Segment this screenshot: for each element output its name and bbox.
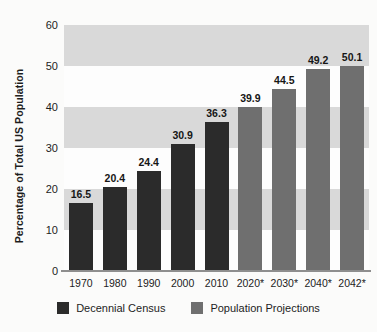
y-tick-10: 10 [2, 224, 58, 236]
bar-group-2020-proj: 39.92020* [238, 25, 262, 271]
y-tick-60: 60 [2, 19, 58, 31]
x-axis-line [61, 270, 371, 272]
plot-area: 16.5197020.4198024.4199030.9200036.32010… [64, 25, 369, 271]
bar [272, 89, 296, 271]
bar-group-2030-proj: 44.52030* [272, 25, 296, 271]
bar [205, 122, 229, 271]
legend-item-census[interactable]: Decennial Census [57, 302, 165, 314]
x-tick-2000: 2000 [171, 277, 194, 289]
bar-value-label: 16.5 [71, 188, 91, 200]
bar [238, 107, 262, 271]
bar [340, 66, 364, 271]
bar-chart: Percentage of Total US Population 605040… [0, 0, 377, 332]
x-tick-2042-proj: 2042* [338, 277, 365, 289]
x-tick-1980: 1980 [103, 277, 126, 289]
bar [137, 171, 161, 271]
bar-value-label: 50.1 [342, 51, 362, 63]
bar-value-label: 20.4 [105, 172, 125, 184]
x-tick-1990: 1990 [137, 277, 160, 289]
bar-value-label: 24.4 [139, 156, 159, 168]
bar-group-1970: 16.51970 [69, 25, 93, 271]
bar-group-2040-proj: 49.22040* [306, 25, 330, 271]
bar-value-label: 39.9 [240, 92, 260, 104]
bar-value-label: 30.9 [172, 129, 192, 141]
bar-group-1990: 24.41990 [137, 25, 161, 271]
bar-group-1980: 20.41980 [103, 25, 127, 271]
bar-group-2010: 36.32010 [205, 25, 229, 271]
y-tick-0: 0 [2, 265, 58, 277]
y-tick-50: 50 [2, 60, 58, 72]
bar [103, 187, 127, 271]
x-tick-2020-proj: 2020* [237, 277, 264, 289]
bar [306, 69, 330, 271]
chart-legend: Decennial CensusPopulation Projections [0, 302, 377, 314]
legend-swatch-icon [57, 302, 69, 314]
bar-value-label: 36.3 [206, 107, 226, 119]
x-tick-2040-proj: 2040* [304, 277, 331, 289]
y-axis-tick-labels: 6050403020100 [0, 0, 58, 332]
y-tick-40: 40 [2, 101, 58, 113]
x-tick-1970: 1970 [69, 277, 92, 289]
legend-label: Decennial Census [76, 302, 165, 314]
bar [171, 144, 195, 271]
bar-group-2000: 30.92000 [171, 25, 195, 271]
legend-item-projections[interactable]: Population Projections [191, 302, 319, 314]
x-tick-2030-proj: 2030* [271, 277, 298, 289]
legend-label: Population Projections [210, 302, 319, 314]
legend-swatch-icon [191, 302, 203, 314]
bar-value-label: 44.5 [274, 74, 294, 86]
y-tick-20: 20 [2, 183, 58, 195]
y-tick-30: 30 [2, 142, 58, 154]
x-tick-2010: 2010 [205, 277, 228, 289]
bar-value-label: 49.2 [308, 54, 328, 66]
bar-group-2042-proj: 50.12042* [340, 25, 364, 271]
bar [69, 203, 93, 271]
